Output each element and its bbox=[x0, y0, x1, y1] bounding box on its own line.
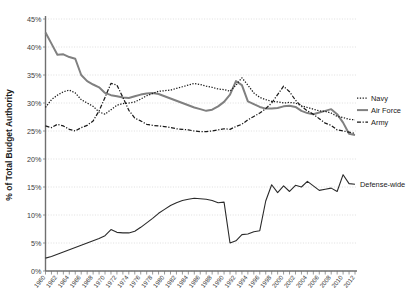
x-tick-label: 2002 bbox=[282, 273, 296, 289]
legend-label-navy: Navy bbox=[371, 94, 388, 103]
x-tick-label: 1978 bbox=[139, 273, 153, 289]
x-tick-label: 1962 bbox=[44, 273, 58, 289]
budget-authority-line-chart: 0%5%10%15%20%25%30%35%40%45% 19601962196… bbox=[0, 0, 419, 300]
x-tick-label: 1960 bbox=[32, 273, 46, 289]
x-tick-label: 1998 bbox=[258, 273, 272, 289]
y-axis-tick-labels: 0%5%10%15%20%25%30%35%40%45% bbox=[27, 15, 45, 276]
x-tick-label: 1976 bbox=[128, 273, 142, 289]
chart-container: 0%5%10%15%20%25%30%35%40%45% 19601962196… bbox=[0, 0, 419, 300]
x-tick-label: 1996 bbox=[247, 273, 261, 289]
x-tick-label: 2000 bbox=[270, 273, 284, 289]
x-tick-label: 1982 bbox=[163, 273, 177, 289]
y-tick-label: 45% bbox=[27, 15, 42, 24]
x-tick-label: 2006 bbox=[306, 273, 320, 289]
x-tick-label: 1992 bbox=[223, 273, 237, 289]
y-axis-title: % of Total Budget Authority bbox=[4, 89, 14, 201]
axes bbox=[46, 16, 358, 271]
chart-legend: NavyAir ForceArmy bbox=[357, 94, 401, 127]
x-tick-label: 1966 bbox=[68, 273, 82, 289]
series-line-air-force bbox=[46, 32, 356, 134]
legend-label-army: Army bbox=[371, 118, 389, 127]
y-tick-label: 40% bbox=[27, 43, 42, 52]
x-tick-label: 2010 bbox=[330, 273, 344, 289]
y-tick-label: 10% bbox=[27, 211, 42, 220]
y-tick-label: 15% bbox=[27, 183, 42, 192]
x-tick-label: 1988 bbox=[199, 273, 213, 289]
legend-label-air-force: Air Force bbox=[371, 106, 401, 115]
x-tick-label: 1994 bbox=[235, 273, 249, 289]
y-tick-label: 25% bbox=[27, 127, 42, 136]
x-tick-label: 1964 bbox=[56, 273, 70, 289]
annotation-label-defense-wide: Defense-wide bbox=[360, 180, 405, 189]
x-tick-label: 2012 bbox=[342, 273, 356, 289]
x-tick-label: 1984 bbox=[175, 273, 189, 289]
x-tick-label: 2004 bbox=[294, 273, 308, 289]
x-tick-label: 1986 bbox=[187, 273, 201, 289]
x-tick-label: 1990 bbox=[211, 273, 225, 289]
gridlines bbox=[46, 19, 358, 271]
y-tick-label: 30% bbox=[27, 99, 42, 108]
y-tick-label: 5% bbox=[31, 239, 42, 248]
x-tick-label: 1968 bbox=[80, 273, 94, 289]
data-series: Defense-wide bbox=[46, 32, 406, 258]
x-tick-label: 1972 bbox=[104, 273, 118, 289]
x-axis-tick-labels: 1960196219641966196819701972197419761978… bbox=[32, 271, 356, 289]
x-tick-label: 1970 bbox=[92, 273, 106, 289]
y-tick-label: 20% bbox=[27, 155, 42, 164]
x-tick-label: 1974 bbox=[116, 273, 130, 289]
y-tick-label: 35% bbox=[27, 71, 42, 80]
x-tick-label: 2008 bbox=[318, 273, 332, 289]
x-tick-label: 1980 bbox=[151, 273, 165, 289]
